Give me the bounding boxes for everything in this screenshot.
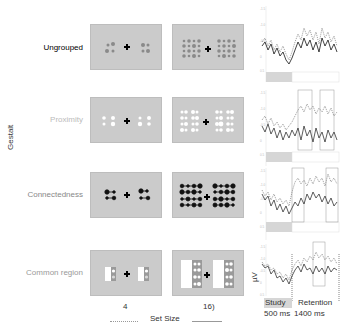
stimulus-common-region-set16 [172, 250, 244, 296]
legend-line-set4-dotted [110, 321, 138, 322]
svg-text:0: 0 [260, 281, 262, 285]
stimulus-common-region-set16-graphic [173, 251, 245, 297]
svg-text:0.5: 0.5 [260, 153, 265, 157]
column-label-set16: 16) [203, 302, 215, 311]
svg-text:-1.0: -1.0 [260, 257, 266, 261]
erp-chart-connectedness: -1.5-1.0-0.500.5 [258, 164, 364, 244]
erp-chart-proximity: -1.5-1.0-0.500.5 [258, 86, 364, 170]
stimulus-connectedness-set4 [90, 172, 162, 218]
row-label-common-region: Common region [26, 268, 83, 277]
svg-text:0: 0 [260, 55, 262, 59]
row-label-ungrouped: Ungrouped [43, 43, 83, 52]
stimulus-ungrouped-set16 [172, 24, 244, 70]
stimulus-connectedness-set16 [172, 172, 244, 218]
stimulus-common-region-set4 [90, 250, 162, 296]
phase-label-study: Study [265, 298, 285, 307]
phase-label-retention: Retention [298, 298, 332, 307]
stimulus-proximity-set4 [90, 97, 162, 143]
stimulus-proximity-set4-graphic [91, 98, 163, 144]
svg-text:-0.5: -0.5 [260, 123, 266, 127]
svg-text:-1.5: -1.5 [260, 245, 266, 249]
phase-duration-study: 500 ms [264, 309, 290, 318]
erp-chart-common-region: -1.5-1.0-0.500.5 [258, 240, 364, 304]
stimulus-proximity-set16 [172, 97, 244, 143]
gestalt-axis-label: Gestalt [6, 125, 15, 150]
legend-line-set16-solid [192, 321, 222, 322]
column-label-set4: 4 [123, 302, 127, 311]
stimulus-ungrouped-set4 [90, 24, 162, 70]
svg-text:-1.0: -1.0 [260, 183, 266, 187]
stimulus-ungrouped-set4-graphic [91, 25, 163, 71]
phase-duration-retention: 1400 ms [294, 309, 325, 318]
row-label-connectedness: Connectedness [27, 190, 83, 199]
stimulus-ungrouped-set16-graphic [173, 25, 245, 71]
svg-text:0: 0 [260, 211, 262, 215]
svg-text:0.5: 0.5 [260, 225, 265, 229]
erp-chart-ungrouped: -1.5-1.0-0.500.5 [258, 2, 364, 86]
svg-text:0.5: 0.5 [260, 293, 265, 297]
erp-y-unit-label: µV [250, 272, 259, 282]
stimulus-proximity-set16-graphic [173, 98, 245, 144]
svg-text:-1.5: -1.5 [260, 91, 266, 95]
svg-text:-1.0: -1.0 [260, 107, 266, 111]
svg-text:-1.0: -1.0 [260, 23, 266, 27]
svg-text:-1.5: -1.5 [260, 7, 266, 11]
svg-text:-1.5: -1.5 [260, 169, 266, 173]
svg-text:0.5: 0.5 [260, 69, 265, 73]
stimulus-connectedness-set4-graphic [91, 173, 163, 219]
row-label-proximity: Proximity [50, 115, 83, 124]
stimulus-connectedness-set16-graphic [173, 173, 245, 219]
stimulus-common-region-set4-graphic [91, 251, 163, 297]
x-group-label: Set Size [150, 314, 180, 323]
svg-text:0: 0 [260, 139, 262, 143]
svg-text:-0.5: -0.5 [260, 269, 266, 273]
